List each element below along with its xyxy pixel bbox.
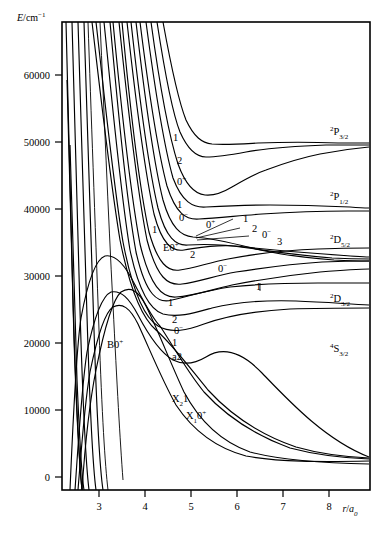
potential-energy-curve-figure: 0 10000 20000 30000 40000 50000 60000 E/… [0,0,386,534]
annotation-1-4S: 1 [172,337,177,348]
x-tick-label-3: 3 [96,501,101,512]
y-tick-label-50000: 50000 [24,137,50,148]
y-axis-title: E/cm−1 [16,11,46,23]
y-axis-tick-labels: 0 10000 20000 30000 40000 50000 60000 [24,70,50,483]
x-tick-label-6: 6 [234,501,239,512]
annotation-1-2D3half: 1 [168,297,173,308]
annotation-a2: a2 [172,351,182,362]
annotation-1-fan: 1 [243,213,248,224]
svg-text:E/cm−1: E/cm−1 [16,11,46,23]
annotation-1-2P1half: 1 [177,199,182,210]
annotation-1-2P3half: 1 [173,132,178,143]
x-tick-label-5: 5 [188,501,193,512]
annotation-2-2D3half: 2 [172,314,177,325]
y-tick-label-60000: 60000 [24,70,50,81]
y-tick-label-0: 0 [45,472,50,483]
svg-text:r/a0: r/a0 [342,503,358,518]
x-tick-label-7: 7 [280,501,285,512]
annotation-3-fan: 3 [277,236,282,247]
x-axis-ticks [99,490,329,497]
annotation-2-2P3half: 2 [177,155,182,166]
y-tick-label-10000: 10000 [24,405,50,416]
x-tick-label-8: 8 [326,501,331,512]
annotation-1-29500: 1 [256,281,261,292]
annotation-2-fan: 2 [252,223,257,234]
annotation-1-E-region: 1 [152,224,157,235]
x-axis-tick-labels: 3 4 5 6 7 8 [96,501,331,512]
y-tick-label-30000: 30000 [24,271,50,282]
annotation-2-2D5half: 2 [190,249,195,260]
x-axis-title: r/a0 [342,503,358,518]
y-tick-label-20000: 20000 [24,338,50,349]
y-tick-label-40000: 40000 [24,204,50,215]
chart-svg: 0 10000 20000 30000 40000 50000 60000 E/… [0,0,386,534]
x-tick-label-4: 4 [142,501,148,512]
y-axis-ticks [55,75,62,477]
